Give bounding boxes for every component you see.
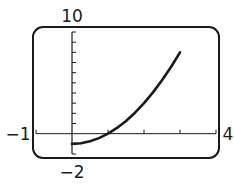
ymax-label: 10 (61, 6, 83, 26)
axes (36, 32, 216, 154)
tick-marks (36, 32, 216, 154)
screen-frame (33, 27, 219, 158)
curve-layer (72, 52, 180, 144)
function-curve (72, 52, 180, 144)
graphing-calculator-screen: 10 −2 −1 4 (0, 0, 234, 185)
xmin-label: −1 (5, 124, 30, 144)
ymin-label: −2 (59, 162, 84, 182)
xmax-label: 4 (223, 124, 234, 144)
